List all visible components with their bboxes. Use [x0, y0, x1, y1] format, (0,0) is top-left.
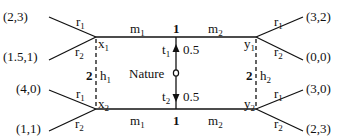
label-y2-r1: r1 [274, 86, 283, 103]
label-x2-r2: r2 [75, 116, 84, 133]
label-y1-r1: r1 [274, 14, 283, 31]
label-y1-r2: r2 [274, 44, 283, 61]
arrow-up-icon [173, 44, 180, 52]
node-y2-label: y2 [244, 96, 255, 113]
prob-t1-label: 0.5 [183, 42, 199, 57]
payoff-y2-r1: (3,0) [306, 81, 331, 96]
message-top-m2: m2 [208, 21, 223, 38]
type-t2-label: t2 [162, 89, 170, 106]
nature-label: Nature [129, 66, 165, 81]
payoff-x1-r1: (2,3) [3, 9, 28, 24]
payoff-x2-r2: (1,1) [16, 121, 41, 136]
prob-t2-label: 0.5 [183, 89, 199, 104]
label-x1-r2: r2 [75, 44, 84, 61]
player2-left-label: 2 [86, 68, 93, 83]
payoff-y1-r2: (0,0) [306, 49, 331, 64]
player2-right-label: 2 [246, 68, 253, 83]
node-x1-label: x1 [98, 36, 109, 53]
label-x2-r1: r1 [76, 86, 85, 103]
game-tree-diagram: (2,3) (1.5,1) (4,0) (1,1) (3,2) (0,0) (3… [0, 0, 349, 138]
label-y2-r2: r2 [274, 116, 283, 133]
type-t1-label: t1 [162, 42, 170, 59]
info-set-h2-label: h2 [260, 68, 271, 85]
node-x2-label: x2 [98, 96, 109, 113]
nature-node-icon [173, 70, 178, 76]
player1-top-label: 1 [173, 21, 180, 36]
player1-bottom-label: 1 [173, 113, 180, 128]
branch-x2-r2 [49, 109, 96, 131]
info-set-h1-label: h1 [100, 68, 111, 85]
payoff-x1-r2: (1.5,1) [3, 49, 38, 64]
message-top-m1: m1 [130, 21, 145, 38]
branch-x1-r1 [49, 17, 96, 37]
game-tree-svg: (2,3) (1.5,1) (4,0) (1,1) (3,2) (0,0) (3… [0, 0, 349, 138]
branch-x2-r1 [49, 90, 96, 109]
payoff-y2-r2: (2,3) [306, 121, 331, 136]
arrow-down-icon [173, 94, 180, 102]
payoff-y1-r1: (3,2) [306, 9, 331, 24]
label-x1-r1: r1 [76, 14, 85, 31]
branch-x1-r2 [49, 37, 96, 60]
message-bottom-m1: m1 [130, 113, 145, 130]
payoff-x2-r1: (4,0) [16, 81, 41, 96]
message-bottom-m2: m2 [208, 113, 223, 130]
node-y1-label: y1 [244, 36, 255, 53]
